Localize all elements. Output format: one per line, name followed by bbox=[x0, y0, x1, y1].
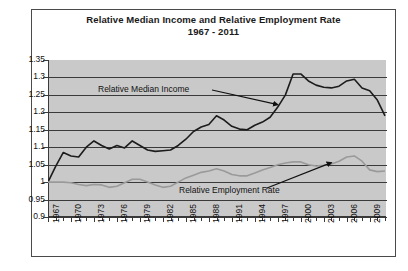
chart-subtitle: 1967 - 2011 bbox=[31, 26, 396, 38]
x-axis-tick-mark bbox=[255, 217, 256, 222]
x-axis-tick-label: 1985 bbox=[189, 204, 198, 223]
x-axis-tick-mark bbox=[370, 217, 371, 222]
x-axis-tick-mark bbox=[178, 217, 179, 221]
x-axis-tick-label: 1973 bbox=[97, 204, 106, 223]
x-axis-tick-mark bbox=[94, 217, 95, 222]
x-axis-labels: 1967197019731976197919821985198819911994… bbox=[48, 223, 386, 257]
x-axis-tick-label: 1982 bbox=[166, 204, 175, 223]
y-axis-tick-label: 1.35 bbox=[4, 55, 45, 64]
x-axis-tick-label: 1997 bbox=[281, 204, 290, 223]
x-axis-tick-mark bbox=[316, 217, 317, 221]
x-axis-tick-label: 1994 bbox=[258, 204, 267, 223]
x-axis-tick-mark bbox=[109, 217, 110, 221]
x-axis-tick-label: 1976 bbox=[120, 204, 129, 223]
series-line bbox=[48, 156, 385, 187]
y-axis-tick-label: 1.1 bbox=[4, 142, 45, 151]
x-axis-tick-mark bbox=[293, 217, 294, 221]
x-axis-tick-mark bbox=[163, 217, 164, 222]
x-axis-tick-mark bbox=[63, 217, 64, 221]
x-axis-tick-mark bbox=[155, 217, 156, 221]
x-axis-tick-mark bbox=[347, 217, 348, 222]
x-axis-tick-mark bbox=[385, 217, 386, 221]
y-axis-tick-label: 1.3 bbox=[4, 72, 45, 81]
x-axis-tick-mark bbox=[270, 217, 271, 221]
x-axis-tick-mark bbox=[132, 217, 133, 221]
x-axis-tick-mark bbox=[48, 217, 49, 222]
x-axis-tick-mark bbox=[362, 217, 363, 221]
x-axis-tick-mark bbox=[209, 217, 210, 222]
x-axis-tick-label: 1970 bbox=[74, 204, 83, 223]
y-axis-tick-label: 1.2 bbox=[4, 107, 45, 116]
x-axis-tick-mark bbox=[71, 217, 72, 222]
chart-title: Relative Median Income and Relative Empl… bbox=[31, 14, 396, 26]
x-axis-tick-mark bbox=[278, 217, 279, 222]
x-axis-tick-label: 1991 bbox=[235, 204, 244, 223]
x-axis-tick-label: 1988 bbox=[212, 204, 221, 223]
x-axis-tick-label: 2003 bbox=[327, 204, 336, 223]
x-axis-tick-label: 2000 bbox=[304, 204, 313, 223]
y-axis-tick-label: 0.95 bbox=[4, 195, 45, 204]
chart-figure: Relative Median Income and Relative Empl… bbox=[0, 0, 408, 271]
x-axis-tick-mark bbox=[301, 217, 302, 222]
x-axis-tick-label: 2006 bbox=[350, 204, 359, 223]
chart-title-block: Relative Median Income and Relative Empl… bbox=[31, 14, 396, 38]
y-axis: 1.351.31.251.21.151.11.0510.950.9 bbox=[0, 60, 45, 217]
annotation-relative-employment-rate: Relative Employment Rate bbox=[179, 185, 280, 195]
x-axis-tick-label: 1967 bbox=[52, 204, 61, 223]
x-axis-tick-mark bbox=[324, 217, 325, 222]
x-axis-tick-mark bbox=[232, 217, 233, 222]
x-axis-tick-mark bbox=[86, 217, 87, 221]
x-axis-tick-mark bbox=[224, 217, 225, 221]
y-axis-tick-label: 1.15 bbox=[4, 125, 45, 134]
x-axis-tick-mark bbox=[186, 217, 187, 222]
x-axis-tick-mark bbox=[201, 217, 202, 221]
x-axis-tick-mark bbox=[247, 217, 248, 221]
x-axis-tick-mark bbox=[140, 217, 141, 222]
y-axis-tick-label: 1 bbox=[4, 177, 45, 186]
y-axis-tick-label: 1.05 bbox=[4, 160, 45, 169]
x-axis-tick-mark bbox=[117, 217, 118, 222]
x-axis-tick-mark bbox=[339, 217, 340, 221]
x-axis-tick-label: 1979 bbox=[143, 204, 152, 223]
annotation-relative-median-income: Relative Median Income bbox=[98, 84, 189, 94]
y-axis-tick-label: 1.25 bbox=[4, 90, 45, 99]
x-axis-tick-label: 2009 bbox=[373, 204, 382, 223]
y-axis-tick-label: 0.9 bbox=[4, 212, 45, 221]
